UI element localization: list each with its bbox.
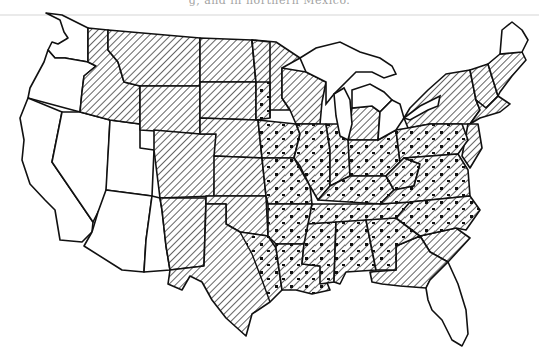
state-michigan-south [348,106,380,140]
state-new-york [404,70,480,128]
state-colorado [154,130,216,198]
us-map [0,0,539,360]
state-utah [106,120,154,196]
state-kansas [214,156,266,196]
state-north-dakota [200,38,256,82]
state-south-dakota [200,82,256,120]
state-wyoming [140,86,200,134]
state-maine-north [500,22,528,54]
